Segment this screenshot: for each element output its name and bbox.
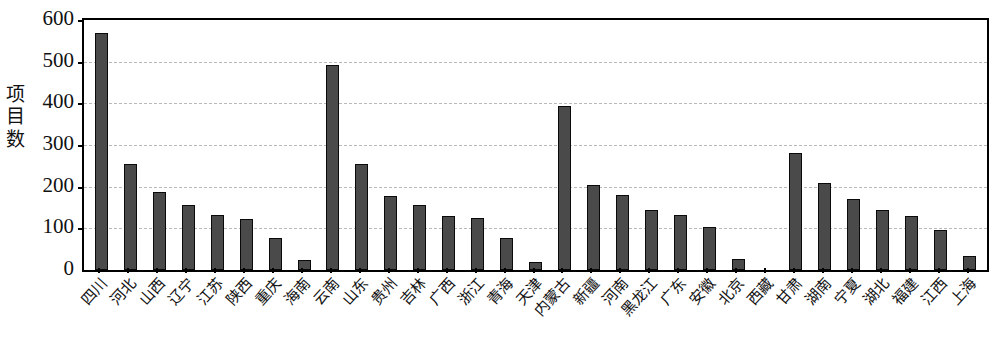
- x-axis-tick-label: 江西: [919, 276, 950, 308]
- x-label-slot: 四川: [85, 274, 114, 338]
- bar[interactable]: [384, 196, 397, 270]
- bar[interactable]: [500, 238, 513, 271]
- x-tick-slot: [866, 268, 895, 273]
- bar[interactable]: [471, 218, 484, 270]
- bar[interactable]: [847, 199, 860, 270]
- x-label-slot: 广西: [432, 274, 461, 338]
- bar-slot: [753, 20, 782, 270]
- bar[interactable]: [645, 210, 658, 270]
- x-label-slot: 贵州: [374, 274, 403, 338]
- x-tick-slot: [201, 268, 230, 273]
- x-label-slot: 新疆: [577, 274, 606, 338]
- x-axis-tickmark: [214, 268, 216, 273]
- plot-area: [82, 18, 989, 272]
- bar[interactable]: [587, 185, 600, 270]
- x-axis-tickmark: [243, 268, 245, 273]
- bar[interactable]: [269, 238, 282, 271]
- x-axis-tickmark: [793, 268, 795, 273]
- bar[interactable]: [703, 227, 716, 270]
- x-label-slot: 辽宁: [172, 274, 201, 338]
- x-label-slot: 湖南: [808, 274, 837, 338]
- bar-slot: [782, 20, 811, 270]
- bar[interactable]: [442, 216, 455, 270]
- x-label-slot: 江西: [924, 274, 953, 338]
- bar-slot: [405, 20, 434, 270]
- x-label-slot: 甘肃: [780, 274, 809, 338]
- x-tick-slot: [693, 268, 722, 273]
- x-axis-tick-label: 西藏: [745, 276, 776, 308]
- x-axis-tickmark: [967, 268, 969, 273]
- bar[interactable]: [789, 153, 802, 270]
- bar-slot: [695, 20, 724, 270]
- x-label-slot: 福建: [895, 274, 924, 338]
- bar[interactable]: [674, 215, 687, 270]
- x-axis-tick-label: 上海: [948, 276, 979, 308]
- bar[interactable]: [413, 205, 426, 270]
- bar[interactable]: [182, 205, 195, 270]
- bar[interactable]: [876, 210, 889, 270]
- bar-slot: [839, 20, 868, 270]
- bar-slot: [347, 20, 376, 270]
- x-axis-tick-label: 湖南: [803, 276, 834, 308]
- bar-slot: [232, 20, 261, 270]
- x-tick-slot: [172, 268, 201, 273]
- x-axis-tickmark: [735, 268, 737, 273]
- x-axis-tick-label: 山东: [340, 276, 371, 308]
- x-axis-tick-label: 广西: [427, 276, 458, 308]
- bar[interactable]: [616, 195, 629, 270]
- x-tick-slot: [288, 268, 317, 273]
- x-tick-slot: [751, 268, 780, 273]
- y-axis-tick-label: 300: [43, 131, 75, 156]
- bar-slot: [376, 20, 405, 270]
- bar[interactable]: [211, 215, 224, 270]
- x-axis-tick-label: 河北: [108, 276, 139, 308]
- x-axis-tickmark: [851, 268, 853, 273]
- x-label-slot: 江苏: [201, 274, 230, 338]
- x-axis-tickmark: [706, 268, 708, 273]
- x-axis-tick-label: 贵州: [369, 276, 400, 308]
- x-axis-tick-label: 吉林: [398, 276, 429, 308]
- x-label-slot: 吉林: [403, 274, 432, 338]
- bar-slot: [521, 20, 550, 270]
- x-tick-slot: [345, 268, 374, 273]
- y-axis-tick-label: 200: [43, 172, 75, 197]
- x-axis-tickmark: [909, 268, 911, 273]
- y-axis-tick-label: 0: [64, 256, 75, 281]
- x-label-slot: 安徽: [693, 274, 722, 338]
- bar[interactable]: [558, 106, 571, 270]
- x-tick-slot: [606, 268, 635, 273]
- bar[interactable]: [124, 164, 137, 270]
- bar[interactable]: [905, 216, 918, 270]
- x-tick-slot: [230, 268, 259, 273]
- x-label-slot: 青海: [490, 274, 519, 338]
- x-axis-tickmark: [301, 268, 303, 273]
- x-axis-tickmark: [504, 268, 506, 273]
- x-axis-tickmark: [764, 268, 766, 273]
- bar-chart: 项目数 0100200300400500600 四川河北山西辽宁江苏陕西重庆海南…: [0, 0, 993, 338]
- bar-slot: [724, 20, 753, 270]
- x-axis-tickmark: [533, 268, 535, 273]
- x-tick-slot: [577, 268, 606, 273]
- x-tick-slot: [519, 268, 548, 273]
- bar[interactable]: [153, 192, 166, 270]
- x-label-slot: 湖北: [866, 274, 895, 338]
- x-axis-tick-label: 浙江: [456, 276, 487, 308]
- bar[interactable]: [355, 164, 368, 270]
- x-axis-tick-label: 广东: [658, 276, 689, 308]
- x-axis-tick-label: 湖北: [861, 276, 892, 308]
- x-label-slot: 河北: [114, 274, 143, 338]
- bar[interactable]: [240, 219, 253, 270]
- x-tick-slot: [895, 268, 924, 273]
- bar[interactable]: [934, 230, 947, 270]
- bar[interactable]: [95, 33, 108, 271]
- bar[interactable]: [326, 65, 339, 270]
- bar-slot: [261, 20, 290, 270]
- bar[interactable]: [818, 183, 831, 270]
- x-axis-tick-label: 海南: [282, 276, 313, 308]
- bar-slot: [897, 20, 926, 270]
- bar-slot: [926, 20, 955, 270]
- x-axis-tickmark: [359, 268, 361, 273]
- bar-slot: [319, 20, 348, 270]
- x-axis-tickmark: [561, 268, 563, 273]
- bar-slot: [868, 20, 897, 270]
